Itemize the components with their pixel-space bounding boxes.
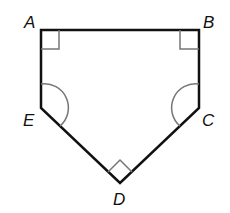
vertex-label-e: E [23, 111, 35, 130]
pentagon-diagram: A B C E D [0, 0, 230, 213]
vertex-label-d: D [113, 190, 125, 209]
vertex-label-b: B [203, 13, 214, 32]
vertex-label-a: A [23, 13, 35, 32]
vertex-label-c: C [202, 111, 215, 130]
right-angle-marker-b [180, 30, 199, 49]
right-angle-marker-a [41, 30, 59, 49]
right-angle-marker-d [108, 160, 132, 172]
